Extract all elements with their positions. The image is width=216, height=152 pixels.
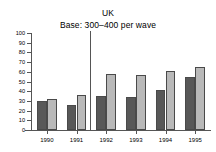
y-axis-tick [27, 72, 31, 73]
y-axis-tick [27, 120, 31, 121]
x-axis-tick [166, 130, 167, 134]
y-axis-tick [27, 43, 31, 44]
y-axis-tick-label: 100 [0, 30, 25, 36]
y-axis-tick [27, 111, 31, 112]
y-axis-tick-label: 90 [0, 40, 25, 46]
y-axis-tick-label: 0 [0, 127, 25, 133]
bar [37, 101, 47, 130]
x-axis-tick [195, 130, 196, 134]
y-axis-tick [27, 91, 31, 92]
bar [136, 75, 146, 130]
y-axis-tick-label: 20 [0, 108, 25, 114]
bar [96, 96, 106, 130]
y-axis-tick [27, 62, 31, 63]
bar [47, 99, 57, 130]
y-axis-tick-label: 60 [0, 69, 25, 75]
x-axis-tick [47, 130, 48, 134]
bar [185, 77, 195, 130]
bar [77, 95, 87, 130]
y-axis-tick [27, 33, 31, 34]
y-axis-tick-label: 50 [0, 79, 25, 85]
x-axis-line [25, 130, 211, 131]
bar [126, 97, 136, 130]
chart-title: UK [0, 8, 216, 18]
y-axis-tick [27, 52, 31, 53]
x-axis-tick [77, 130, 78, 134]
bars-layer [32, 33, 210, 130]
y-axis-tick-label: 70 [0, 59, 25, 65]
x-axis-tick-label: 1995 [178, 137, 212, 144]
bar [67, 105, 77, 130]
x-axis-tick [136, 130, 137, 134]
y-axis-tick-label: 30 [0, 98, 25, 104]
y-axis-tick [27, 82, 31, 83]
bar [156, 90, 166, 130]
y-axis-tick [27, 130, 31, 131]
chart-subtitle: Base: 300–400 per wave [0, 20, 216, 30]
bar [106, 74, 116, 130]
x-axis-tick [106, 130, 107, 134]
y-axis-tick-label: 40 [0, 88, 25, 94]
y-axis-tick [27, 101, 31, 102]
y-axis-tick-label: 10 [0, 117, 25, 123]
bar [166, 71, 176, 130]
bar [195, 67, 205, 130]
chart-container: UK Base: 300–400 per wave 01020304050607… [0, 0, 216, 152]
y-axis-tick-label: 80 [0, 49, 25, 55]
